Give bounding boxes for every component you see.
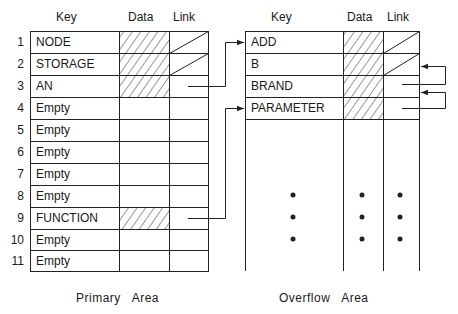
overflow-key: ADD [251,35,276,49]
primary-key: Empty [36,101,70,115]
overflow-header-link: Link [387,10,409,24]
overflow-key: BRAND [251,79,293,93]
primary-key: AN [36,79,53,93]
row-number: 5 [0,123,24,137]
row-number: 9 [0,211,24,225]
row-number: 6 [0,145,24,159]
primary-area-caption: Primary Area [76,291,159,305]
pointer-connectors [188,43,446,219]
primary-key: STORAGE [36,57,94,71]
primary-key: NODE [36,35,71,49]
overflow-header-key: Key [271,10,292,24]
row-number: 8 [0,189,24,203]
primary-key: Empty [36,123,70,137]
overflow-key: PARAMETER [251,101,325,115]
primary-key: FUNCTION [36,211,98,225]
row-number: 10 [0,233,24,247]
overflow-area-caption: Overflow Area [279,291,369,305]
primary-key: Empty [36,145,70,159]
overflow-header-data: Data [347,10,372,24]
primary-key: Empty [36,167,70,181]
row-number: 4 [0,101,24,115]
primary-header-link: Link [173,10,195,24]
primary-key: Empty [36,233,70,247]
primary-key: Empty [36,254,70,268]
row-number: 2 [0,57,24,71]
primary-header-data: Data [128,10,153,24]
overflow-key: B [251,57,259,71]
row-number: 3 [0,79,24,93]
ellipsis-dots [291,193,403,242]
row-number: 11 [0,254,24,268]
row-number: 7 [0,167,24,181]
row-number: 1 [0,35,24,49]
primary-key: Empty [36,189,70,203]
primary-header-key: Key [56,10,77,24]
overflow-table [245,31,420,271]
